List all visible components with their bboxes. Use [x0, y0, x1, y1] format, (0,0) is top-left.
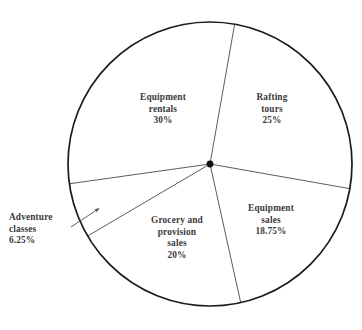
slice-rafting-tours[interactable]: [210, 24, 352, 189]
pie-center-dot: [207, 161, 214, 168]
pie-chart-figure: Equipment rentals 30% Rafting tours 25% …: [0, 0, 362, 330]
slice-equipment-rentals[interactable]: [68, 22, 235, 184]
pie-chart-canvas: [0, 0, 362, 330]
